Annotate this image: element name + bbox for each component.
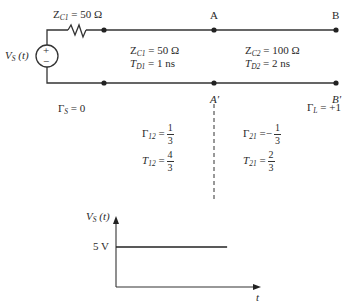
node-dot-a-prime xyxy=(211,80,216,85)
line2-impedance: ZC2 = 100 Ω xyxy=(245,45,300,58)
t-12: T12 =43 xyxy=(142,150,174,173)
t-21: T21 =23 xyxy=(243,150,275,173)
gamma-12: Γ12 =13 xyxy=(142,123,174,146)
y-axis-arrow-icon xyxy=(113,216,119,224)
node-dot-b-prime xyxy=(333,80,338,85)
wire-source-top xyxy=(47,30,68,45)
x-axis-arrow-icon xyxy=(253,284,261,290)
line1-impedance: ZC1 = 50 Ω xyxy=(130,45,179,58)
source-resistor xyxy=(68,25,86,37)
chart-y-tick-5v: 5 V xyxy=(93,241,109,252)
source-waveform-chart xyxy=(113,216,261,290)
chart-y-label: VS (t) xyxy=(86,211,110,224)
gamma-load: ΓL = +1 xyxy=(307,102,341,115)
node-label-a-prime: A′ xyxy=(210,94,219,105)
gamma-21: Γ21 =−13 xyxy=(243,123,281,146)
source-label: VS (t) xyxy=(5,50,29,63)
node-label-b: B xyxy=(332,10,339,21)
node-dot-b xyxy=(333,27,338,32)
line1-delay: TD1 = 1 ns xyxy=(130,58,175,71)
node-dot-bottom-left xyxy=(101,80,106,85)
node-label-a: A xyxy=(210,10,218,21)
wire-source-bottom xyxy=(47,67,336,83)
node-dot-a xyxy=(211,27,216,32)
line2-delay: TD2 = 2 ns xyxy=(245,58,290,71)
chart-x-label: t xyxy=(256,292,259,303)
source-resistor-label: ZC1 = 50 Ω xyxy=(53,9,102,22)
gamma-source: ΓS = 0 xyxy=(58,103,85,116)
node-dot-top-left xyxy=(101,27,106,32)
minus-sign-icon: − xyxy=(43,56,49,67)
